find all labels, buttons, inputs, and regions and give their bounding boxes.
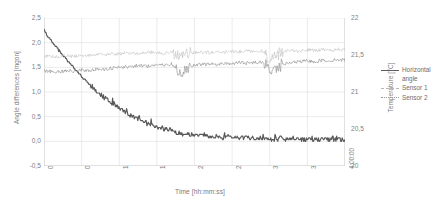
legend-swatch-icon (381, 88, 399, 89)
legend-swatch-icon (381, 70, 399, 71)
chart-legend: HorizontalangleSensor 1Sensor 2 (381, 66, 431, 103)
legend-label: Sensor 1 (402, 84, 428, 91)
y-tick-label: 2,0 (17, 39, 41, 46)
x-axis-title: Time [hh:mm:ss] (175, 188, 225, 195)
legend-label: Sensor 2 (402, 94, 428, 101)
y-tick-label: 0,5 (17, 113, 41, 120)
plot-area (44, 18, 345, 166)
plot-svg (44, 18, 345, 166)
y-tick-label: 0,0 (17, 137, 41, 144)
legend-item[interactable]: Sensor 2 (381, 94, 431, 103)
chart-figure: Angle differences [mgon] Temperature [°C… (0, 0, 447, 210)
legend-item[interactable]: Sensor 1 (381, 84, 431, 93)
x-tick-label: 4:00:00 (348, 148, 355, 169)
y2-tick-label: 22 (351, 14, 375, 21)
y2-tick-label: 21,5 (351, 51, 375, 58)
y2-tick-label: 20,5 (351, 125, 375, 132)
y2-tick-label: 21 (351, 88, 375, 95)
y-tick-label: -0,5 (17, 162, 41, 169)
legend-label: Horizontal (402, 66, 431, 73)
y-tick-label: 2,5 (17, 14, 41, 21)
y-tick-label: 1,5 (17, 63, 41, 70)
legend-swatch-icon (381, 97, 399, 98)
legend-item[interactable]: Horizontalangle (381, 66, 431, 83)
y-tick-label: 1,0 (17, 88, 41, 95)
legend-label-continued: angle (402, 75, 418, 82)
